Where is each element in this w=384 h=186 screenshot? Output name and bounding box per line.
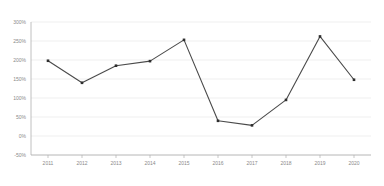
y-axis-tick-label: -50%	[0, 152, 26, 158]
y-axis-tick-label: 50%	[0, 114, 26, 120]
y-axis-tick-label: 200%	[0, 57, 26, 63]
data-point-marker	[47, 59, 50, 62]
y-axis-tick-label: 150%	[0, 76, 26, 82]
x-axis-tick-label: 2017	[237, 160, 267, 166]
data-point-marker	[81, 82, 84, 85]
line-chart: -50%0%50%100%150%200%250%300% 2011201220…	[0, 0, 384, 186]
series-line	[48, 36, 354, 125]
data-point-marker	[353, 78, 356, 81]
data-point-marker	[251, 124, 254, 127]
x-axis-tick-label: 2014	[135, 160, 165, 166]
data-point-marker	[319, 35, 322, 38]
y-axis-tick-label: 100%	[0, 95, 26, 101]
data-point-marker	[285, 99, 288, 102]
gridlines	[31, 22, 371, 155]
x-axis-tick-label: 2016	[203, 160, 233, 166]
x-axis-tick-label: 2019	[305, 160, 335, 166]
data-point-marker	[183, 39, 186, 42]
x-axis-tick-label: 2013	[101, 160, 131, 166]
x-axis-tick-label: 2020	[339, 160, 369, 166]
data-point-marker	[217, 120, 220, 123]
data-point-marker	[149, 60, 152, 63]
data-point-marker	[115, 64, 118, 67]
x-axis-tick-label: 2015	[169, 160, 199, 166]
data-line	[48, 36, 354, 125]
y-axis-tick-label: 0%	[0, 133, 26, 139]
y-axis-tick-label: 250%	[0, 38, 26, 44]
x-axis-tick-label: 2018	[271, 160, 301, 166]
y-axis-tick-label: 300%	[0, 19, 26, 25]
x-axis-tick-label: 2012	[67, 160, 97, 166]
x-axis-tick-label: 2011	[33, 160, 63, 166]
axis-lines	[31, 22, 371, 158]
chart-plot-area	[0, 0, 384, 186]
